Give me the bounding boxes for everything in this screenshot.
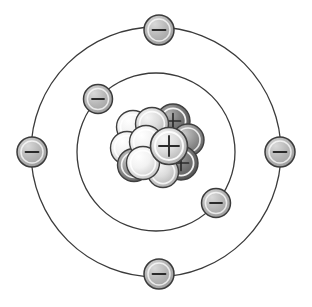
nucleus-particle-proton	[151, 128, 188, 165]
electron[interactable]	[84, 85, 113, 114]
nucleus	[111, 104, 205, 188]
electron[interactable]	[144, 259, 174, 289]
electron[interactable]	[202, 189, 231, 218]
atom-diagram	[0, 0, 312, 307]
electron[interactable]	[265, 137, 295, 167]
electron[interactable]	[144, 15, 174, 45]
electron[interactable]	[17, 137, 47, 167]
